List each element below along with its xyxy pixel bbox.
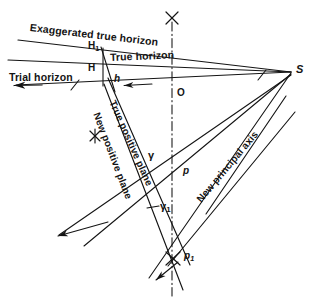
ray-arrow-lowerleft (58, 222, 108, 236)
label-point-h: h (114, 74, 120, 84)
label-point-O: O (177, 88, 185, 98)
ray-S-to-p (59, 75, 291, 235)
label-point-p1: p1 (184, 251, 194, 262)
line-new-principal-axis-parallel (206, 96, 286, 214)
tick-gamma1 (147, 206, 159, 208)
trial-horizon-left-arrow (14, 85, 42, 86)
label-point-H1: H1 (88, 41, 99, 52)
arrow-on-trial-horizon (124, 84, 152, 86)
label-H1-subscript: 1 (95, 44, 99, 53)
label-point-S: S (296, 64, 303, 75)
label-point-H: H (88, 63, 95, 73)
tick-near-S (258, 70, 266, 80)
line-new-principal-axis (168, 112, 295, 266)
label-true-horizon: True horizon (110, 49, 175, 62)
label-point-gamma: γ (148, 150, 154, 161)
label-p1-subscript: 1 (190, 254, 194, 263)
label-gamma1-subscript: 1 (166, 205, 171, 214)
label-point-gamma1: γ1 (160, 201, 171, 214)
label-trial-horizon: Trial horizon (9, 72, 73, 83)
label-point-p: p (183, 166, 189, 176)
